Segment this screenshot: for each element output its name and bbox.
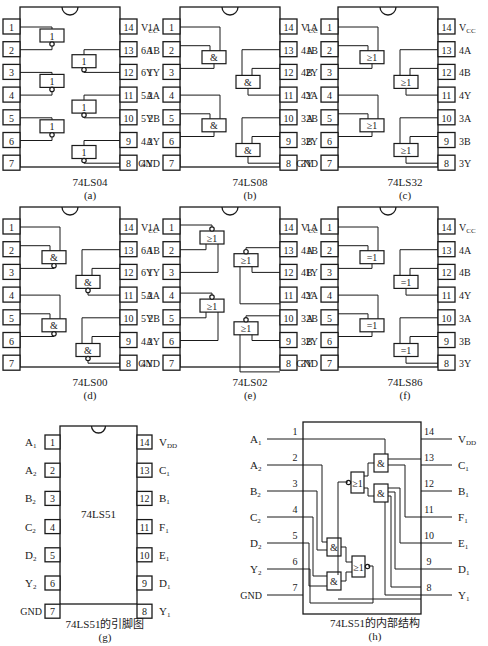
pin-label: GND (20, 606, 42, 617)
inversion-bubble-icon (244, 318, 248, 322)
pin-number: 7 (9, 358, 14, 369)
pin-number: 1 (50, 437, 55, 448)
pin-number: 10 (124, 313, 134, 324)
gate-symbol: & (50, 320, 58, 331)
gate-symbol: & (84, 277, 92, 288)
pin-label: VCC (459, 222, 476, 235)
pin-label: 2A (306, 290, 319, 301)
pin-number: 1 (169, 22, 174, 33)
pin-number: 12 (284, 67, 294, 78)
pin-label: 2B (148, 113, 160, 124)
pin-label: 1A (0, 22, 1, 33)
gate-symbol: 1 (50, 121, 55, 132)
pin-number: 13 (140, 465, 150, 476)
pin-label: B2 (25, 492, 36, 506)
chip-body (303, 422, 421, 614)
logic-gate: ≥1 (394, 144, 418, 157)
gate-symbol: ≥1 (367, 52, 378, 63)
logic-gate: & (236, 75, 260, 88)
pin-number: 10 (424, 530, 434, 541)
chip-body (338, 207, 438, 367)
pin-number: 11 (424, 504, 434, 515)
pin-label: 3A (459, 313, 472, 324)
logic-gate: & (374, 454, 388, 472)
chip-e: 11A21B31Y42A52B62Y7GND14VCC134A124B114Y1… (138, 207, 318, 372)
pin-label: 2A (148, 90, 161, 101)
pin-number: 10 (284, 113, 294, 124)
gate-symbol: =1 (401, 345, 412, 356)
pin-number: 2 (50, 465, 55, 476)
pin-number: 6 (293, 556, 298, 567)
pin-label: C2 (250, 511, 261, 525)
pin-number: 12 (124, 67, 134, 78)
gate-symbol: ≥1 (401, 77, 412, 88)
gate-symbol: 1 (50, 76, 55, 87)
pin-number: 14 (140, 437, 150, 448)
pin-number: 12 (442, 67, 452, 78)
pin-number: 6 (327, 336, 332, 347)
pin-label: Y1 (458, 589, 470, 603)
chip-body (338, 7, 438, 167)
pin-label: GND (296, 358, 318, 369)
gate-symbol: & (330, 542, 338, 553)
pin-number: 9 (427, 556, 432, 567)
pin-number: 2 (293, 452, 298, 463)
pin-label: D2 (250, 537, 262, 551)
pin-label: A1 (25, 436, 37, 450)
pin-label: C2 (25, 521, 36, 535)
pin-number: 14 (124, 222, 134, 233)
gate-symbol: ≥1 (353, 562, 364, 573)
pin-label: A2 (250, 459, 262, 473)
pin-number: 7 (169, 358, 174, 369)
gate-symbol: ≥1 (207, 233, 218, 244)
pin-number: 4 (50, 522, 55, 533)
pin-label: 2A (0, 67, 1, 78)
pin-number: 2 (9, 45, 14, 56)
gate-symbol: & (210, 52, 218, 63)
chip-e-caption: 74LS02 (e) (200, 376, 300, 402)
pin-number: 9 (286, 136, 291, 147)
gate-symbol: ≥1 (207, 301, 218, 312)
inversion-bubble-icon (50, 87, 54, 91)
inversion-bubble-icon (86, 356, 90, 360)
logic-gate: ≥1 (360, 51, 384, 64)
pin-label: 1Y (148, 67, 160, 78)
chip-a: 11A21Y32A42Y53A63Y7GND14VCC136A126Y115A1… (0, 7, 158, 170)
pin-number: 10 (442, 313, 452, 324)
pin-label: A1 (250, 433, 262, 447)
pin-number: 9 (126, 136, 131, 147)
pin-number: 11 (124, 290, 134, 301)
pin-label: A2 (25, 464, 37, 478)
pin-number: 2 (327, 45, 332, 56)
chip-d-caption: 74LS00 (d) (40, 376, 140, 402)
pin-number: 10 (442, 113, 452, 124)
pin-number: 1 (327, 222, 332, 233)
pin-label: 1Y (306, 267, 318, 278)
pin-number: 13 (442, 245, 452, 256)
pin-number: 8 (142, 606, 147, 617)
inversion-bubble-icon (52, 264, 56, 268)
pin-number: 12 (124, 267, 134, 278)
pin-label: E1 (458, 537, 469, 551)
pin-number: 13 (442, 45, 452, 56)
chip-f-name: 74LS86 (355, 376, 455, 389)
gate-symbol: & (377, 458, 385, 469)
pin-number: 13 (424, 452, 434, 463)
pin-label: 2Y (148, 336, 160, 347)
chip-body (180, 7, 280, 167)
logic-gate: & (202, 119, 226, 132)
chip-a-label: (a) (40, 189, 140, 202)
pin-number: 5 (169, 313, 174, 324)
gate-symbol: & (50, 252, 58, 263)
pin-number: 7 (327, 158, 332, 169)
pin-number: 13 (284, 45, 294, 56)
pin-label: 2B (306, 313, 318, 324)
logic-gate: ≥1 (394, 75, 418, 88)
pin-number: 11 (284, 90, 294, 101)
pin-number: 4 (9, 290, 14, 301)
gate-symbol: ≥1 (241, 255, 252, 266)
pin-number: 8 (286, 358, 291, 369)
pin-label: GND (138, 358, 160, 369)
pin-number: 11 (140, 522, 150, 533)
pin-label: 2Y (148, 136, 160, 147)
